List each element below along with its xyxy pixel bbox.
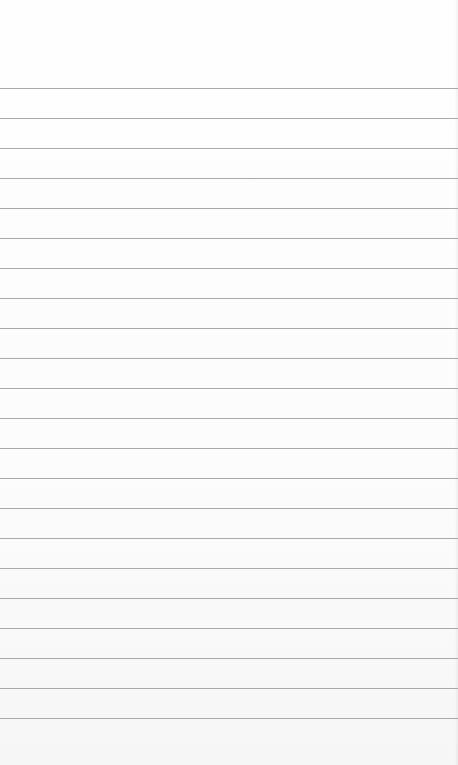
rule-line	[0, 418, 458, 419]
rule-line	[0, 478, 458, 479]
rule-line	[0, 298, 458, 299]
rule-line	[0, 598, 458, 599]
rule-line	[0, 148, 458, 149]
rule-line	[0, 538, 458, 539]
rule-line	[0, 268, 458, 269]
rule-line	[0, 658, 458, 659]
rule-line	[0, 688, 458, 689]
rule-line	[0, 88, 458, 89]
rule-line	[0, 118, 458, 119]
rule-line	[0, 718, 458, 719]
rule-line	[0, 388, 458, 389]
rule-line	[0, 208, 458, 209]
ruled-page: ​	[0, 0, 458, 765]
rule-line	[0, 628, 458, 629]
rule-line	[0, 568, 458, 569]
rule-line	[0, 238, 458, 239]
rule-line	[0, 358, 458, 359]
rule-line	[0, 448, 458, 449]
rule-line	[0, 328, 458, 329]
rule-line	[0, 508, 458, 509]
rule-line	[0, 178, 458, 179]
